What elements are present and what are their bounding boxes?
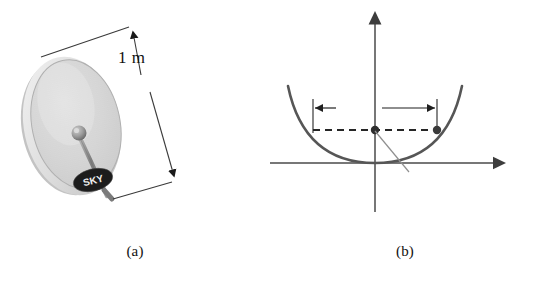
panel-a-caption: (a) — [0, 243, 270, 260]
focus-point-marker — [371, 126, 379, 134]
dish-feed-ball — [72, 126, 87, 141]
focus-leader-line — [375, 131, 409, 172]
panel-a-illustration: SKY — [0, 0, 270, 240]
panel-a-dimension-label: 1 m — [118, 48, 145, 68]
panel-b-parabola-diagram: 1 m y x F(0, c) ( 1 2 , c ) (b) — [270, 0, 540, 288]
panel-b-caption: (b) — [270, 243, 540, 260]
panel-a-satellite-dish: SKY 1 m (a) — [0, 0, 270, 288]
rim-point-marker — [433, 126, 441, 134]
figure-container: SKY 1 m (a) — [0, 0, 540, 288]
dish-body — [9, 48, 134, 205]
panel-b-plot — [270, 0, 540, 240]
